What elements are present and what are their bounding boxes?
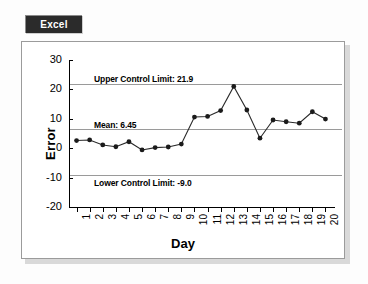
data-point — [166, 145, 171, 150]
data-point — [140, 148, 145, 153]
data-point — [310, 109, 315, 114]
data-point — [74, 138, 79, 143]
excel-badge-label: Excel — [40, 20, 68, 30]
control-chart: Error Day 3020100-10-20 1234567891011121… — [22, 42, 344, 258]
data-point — [284, 119, 289, 124]
series-line — [77, 86, 326, 149]
data-point — [87, 138, 92, 143]
screenshot-root: Excel Error Day 3020100-10-20 1234567891… — [0, 0, 368, 284]
data-point — [127, 139, 132, 144]
data-point — [297, 121, 302, 126]
data-point — [271, 118, 276, 123]
data-point — [192, 115, 197, 120]
data-point — [100, 143, 105, 148]
data-point — [231, 84, 236, 89]
data-point — [323, 117, 328, 122]
data-point — [153, 145, 158, 150]
data-point — [218, 108, 223, 113]
data-point — [244, 108, 249, 113]
data-point — [205, 114, 210, 119]
excel-badge: Excel — [25, 15, 82, 33]
data-point — [258, 136, 263, 141]
data-point — [179, 142, 184, 147]
data-point — [113, 144, 118, 149]
chart-card: Error Day 3020100-10-20 1234567891011121… — [21, 41, 345, 259]
data-series — [22, 42, 344, 258]
